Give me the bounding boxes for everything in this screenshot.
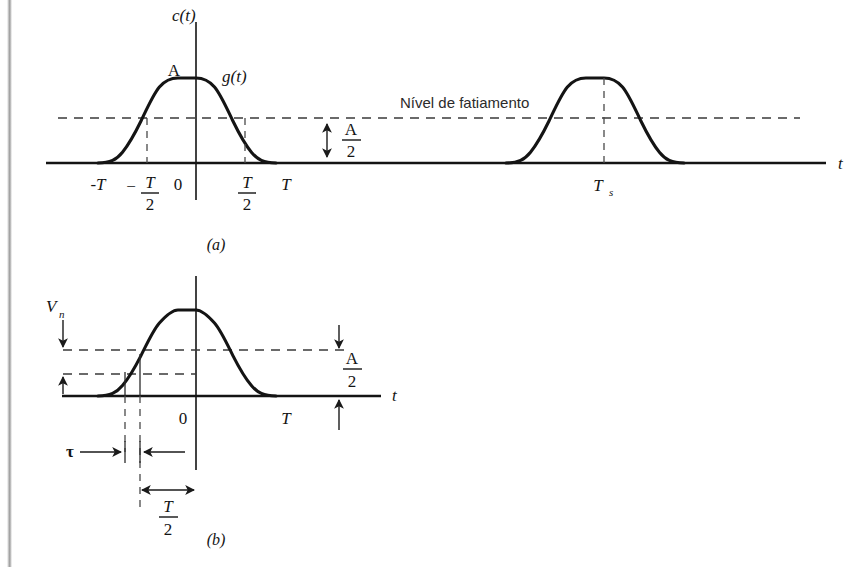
panel-b-amplitude-denominator: 2 — [348, 372, 357, 391]
panel-a-tick-label-t: T — [281, 175, 292, 194]
panel-a-slicing-level-label: Nível de fatiamento — [400, 94, 529, 111]
panel-b-origin-label: 0 — [179, 409, 188, 428]
panel-b-period-label: T — [281, 409, 292, 428]
panel-a-tick-plus-half-numerator: T — [242, 173, 253, 192]
panel-a-tick-minus-half-numerator: T — [145, 173, 156, 192]
diagram-canvas: c(t) t A g(t) Nível de fatiamento — [0, 0, 855, 567]
panel-a-ts-base: T — [593, 176, 604, 195]
panel-a-tick-label-ts: T s — [593, 176, 613, 198]
panel-a-ts-subscript: s — [609, 186, 613, 198]
panel-b-half-period-numerator: T — [163, 497, 174, 516]
panel-b-noise-label: V — [46, 297, 59, 316]
panel-a-tick-label-minus-half-t: − T 2 — [126, 173, 159, 214]
panel-a-tick-plus-half-denominator: 2 — [243, 195, 252, 214]
scan-edge-artifact — [7, 0, 12, 567]
panel-a: c(t) t A g(t) Nível de fatiamento — [46, 6, 844, 254]
panel-b-noise-subscript: n — [59, 308, 65, 320]
panel-a-y-axis-label: c(t) — [172, 6, 196, 25]
panel-a-tick-label-minus-t: -T — [90, 175, 107, 194]
panel-a-tick-minus-sign: − — [126, 177, 136, 196]
figure-root: c(t) t A g(t) Nível de fatiamento — [0, 0, 855, 567]
panel-a-caption: (a) — [207, 236, 226, 254]
panel-b-amplitude-fraction: A 2 — [343, 349, 362, 391]
panel-a-amplitude-fraction: A 2 — [342, 120, 361, 161]
panel-a-amplitude-denominator: 2 — [347, 142, 356, 161]
panel-a-tick-label-plus-half-t: T 2 — [238, 173, 256, 214]
panel-b-tau-label: τ — [66, 442, 74, 461]
panel-b: t V n A — [46, 276, 398, 549]
panel-b-x-axis-label: t — [392, 386, 398, 405]
panel-a-tick-label-zero: 0 — [174, 175, 183, 194]
panel-a-pulse-1 — [98, 78, 276, 163]
panel-a-amplitude-numerator: A — [345, 120, 358, 139]
panel-b-noise-label-group: V n — [46, 297, 65, 320]
panel-a-pulse-2 — [506, 78, 684, 163]
panel-a-x-axis-label: t — [838, 154, 844, 173]
panel-b-amplitude-numerator: A — [346, 349, 359, 368]
panel-a-peak-label: A — [168, 61, 181, 80]
panel-a-curve-label: g(t) — [222, 67, 247, 86]
panel-a-tick-minus-half-denominator: 2 — [146, 195, 155, 214]
panel-b-half-period-denominator: 2 — [164, 520, 173, 539]
panel-b-half-period-fraction: T 2 — [159, 497, 178, 539]
panel-b-caption: (b) — [207, 531, 226, 549]
